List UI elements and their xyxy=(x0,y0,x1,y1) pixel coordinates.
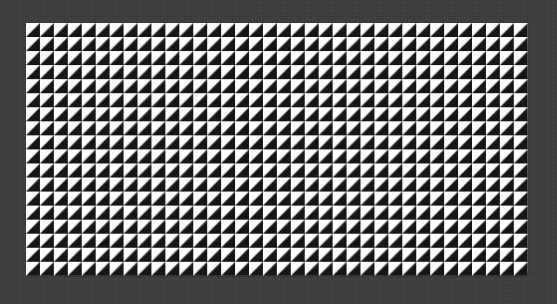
triangle-tile-pattern xyxy=(26,23,528,276)
